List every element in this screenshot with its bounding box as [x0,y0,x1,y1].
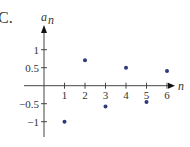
data-point [165,69,169,73]
x-tick-label: 4 [123,89,129,101]
data-point [104,105,108,109]
y-tick-label: −0.5 [19,98,39,110]
scatter-chart: nan12345610.5−0.5−1 [0,0,190,147]
y-tick-label: −1 [27,116,39,128]
y-tick-label: 0.5 [25,62,39,74]
y-axis-arrow-icon [41,25,47,33]
x-tick-label: 1 [62,89,68,101]
x-tick-label: 5 [144,89,150,101]
data-point [145,100,149,104]
data-point [83,58,87,62]
y-axis-label: a [41,10,47,24]
data-point [124,66,128,70]
x-tick-label: 3 [103,89,109,101]
y-axis-label-subscript: n [48,13,54,27]
x-axis-label: n [178,79,184,93]
x-tick-label: 6 [164,89,170,101]
x-tick-label: 2 [82,89,88,101]
data-point [63,120,67,124]
y-tick-label: 1 [34,44,40,56]
